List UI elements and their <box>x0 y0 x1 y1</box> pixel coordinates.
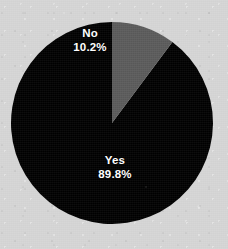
pie-slice-label-yes-name: Yes <box>76 153 154 167</box>
pie-slice-label-no-name: No <box>52 26 128 40</box>
pie-chart-figure: No 10.2% Yes 89.8% <box>0 0 228 249</box>
pie-slice-label-yes-value: 89.8% <box>76 167 154 181</box>
pie-slice-label-yes: Yes 89.8% <box>76 153 154 181</box>
pie-slice-label-no: No 10.2% <box>52 26 128 54</box>
pie-slice-label-no-value: 10.2% <box>52 40 128 54</box>
